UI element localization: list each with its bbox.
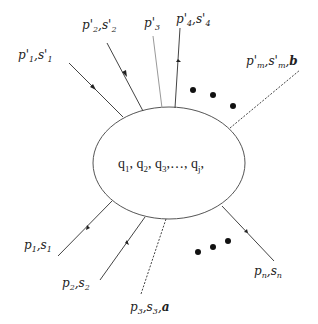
incoming-line-n — [222, 206, 274, 261]
outgoing-line-2 — [107, 43, 143, 111]
outgoing-line-m — [230, 70, 300, 128]
outgoing-line-3 — [153, 36, 162, 108]
ellipsis-dots-top — [190, 87, 236, 109]
label-outgoing-m: p'm,s'm,b — [246, 54, 298, 70]
label-incoming-3: p3,s3,a — [130, 300, 169, 316]
ellipsis-dots-bottom — [195, 238, 231, 255]
label-outgoing-2: p'2,s'2 — [82, 18, 116, 34]
incoming-line-2 — [100, 217, 145, 280]
label-incoming-n: pn,sn — [254, 264, 282, 280]
label-outgoing-3: p'3 — [144, 16, 160, 32]
outgoing-line-1 — [69, 63, 123, 117]
incoming-line-1 — [58, 201, 112, 256]
outgoing-line-4 — [175, 28, 181, 108]
label-incoming-1: p1,s1 — [24, 238, 52, 254]
incoming-line-3 — [141, 219, 166, 294]
center-label: q1, q2, q3,…, qj, — [118, 156, 204, 174]
label-incoming-2: p2,s2 — [62, 276, 90, 292]
label-outgoing-1: p'1,s'1 — [18, 48, 52, 64]
scattering-diagram: q1, q2, q3,…, qj, p'1,s'1 p'2,s'2 p'3 p'… — [0, 0, 318, 324]
label-outgoing-4: p'4,s'4 — [176, 12, 210, 28]
